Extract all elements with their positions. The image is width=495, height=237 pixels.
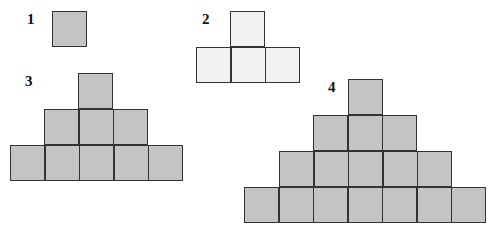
tile-square: [148, 145, 183, 181]
tile-square: [314, 151, 349, 187]
tile-square: [52, 11, 87, 47]
tile-square: [113, 109, 148, 145]
tile-square: [78, 73, 113, 109]
tile-square: [348, 115, 383, 151]
figure-label: 1: [27, 12, 35, 27]
tile-square: [382, 115, 417, 151]
tile-square: [79, 145, 114, 181]
tile-square: [45, 145, 80, 181]
tile-square: [348, 187, 383, 223]
tile-square: [230, 11, 265, 47]
figure-label: 2: [202, 12, 210, 27]
tile-square: [231, 47, 266, 83]
tile-square: [196, 47, 231, 83]
tile-square: [114, 145, 149, 181]
tile-square: [279, 187, 314, 223]
figure-label: 4: [328, 80, 336, 95]
tile-square: [44, 109, 79, 145]
tile-square: [244, 187, 279, 223]
tile-square: [382, 187, 417, 223]
tile-square: [265, 47, 300, 83]
tile-square: [313, 187, 348, 223]
figure-label: 3: [25, 74, 33, 89]
tile-square: [79, 109, 114, 145]
tile-square: [383, 151, 418, 187]
tile-square: [279, 151, 314, 187]
tile-square: [417, 151, 452, 187]
tile-square: [348, 151, 383, 187]
tile-square: [10, 145, 45, 181]
tile-square: [451, 187, 486, 223]
tile-square: [348, 79, 383, 115]
tile-square: [313, 115, 348, 151]
tile-square: [417, 187, 452, 223]
